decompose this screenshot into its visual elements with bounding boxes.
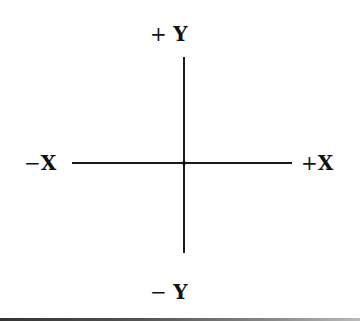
positive-x-var: X <box>318 151 334 175</box>
origin-point <box>182 161 186 165</box>
negative-x-sign: − <box>24 151 41 175</box>
negative-y-var: Y <box>173 280 187 304</box>
negative-x-var: X <box>41 151 57 175</box>
positive-y-var: Y <box>173 22 187 46</box>
negative-x-label: −X <box>24 153 56 173</box>
positive-x-sign: + <box>301 151 318 175</box>
positive-x-label: +X <box>301 153 333 173</box>
negative-y-label: − Y <box>150 282 187 302</box>
axes-diagram: + Y − Y −X +X <box>0 0 360 321</box>
negative-y-sign: − <box>150 280 167 304</box>
positive-y-sign: + <box>150 22 167 46</box>
y-axis-line <box>183 57 185 253</box>
positive-y-label: + Y <box>150 24 187 44</box>
